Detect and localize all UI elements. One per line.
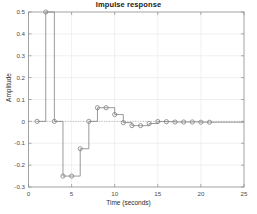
- svg-text:-0.2: -0.2: [14, 161, 25, 168]
- chart-svg: 0510152025-0.3-0.2-0.100.10.20.30.40.5: [0, 0, 257, 214]
- svg-text:0: 0: [22, 118, 26, 125]
- svg-text:20: 20: [197, 190, 204, 197]
- svg-text:-0.3: -0.3: [14, 183, 25, 190]
- axis-tick-labels: 0510152025-0.3-0.2-0.100.10.20.30.40.5: [14, 8, 248, 197]
- svg-text:-0.1: -0.1: [14, 139, 25, 146]
- svg-text:0.4: 0.4: [16, 30, 25, 37]
- svg-text:0: 0: [27, 190, 31, 197]
- data-point-markers: [35, 10, 212, 178]
- svg-text:10: 10: [111, 190, 118, 197]
- svg-text:0.2: 0.2: [16, 74, 25, 81]
- svg-text:15: 15: [154, 190, 161, 197]
- impulse-response-figure: Impulse response Amplitude Time (seconds…: [0, 0, 257, 214]
- svg-text:25: 25: [241, 190, 248, 197]
- gridlines: [29, 12, 245, 187]
- svg-text:0.5: 0.5: [16, 8, 25, 15]
- plot-area: 0510152025-0.3-0.2-0.100.10.20.30.40.5: [0, 0, 257, 214]
- svg-text:0.3: 0.3: [16, 52, 25, 59]
- svg-text:0.1: 0.1: [16, 96, 25, 103]
- svg-text:5: 5: [70, 190, 74, 197]
- data-line-stairs: [37, 12, 244, 176]
